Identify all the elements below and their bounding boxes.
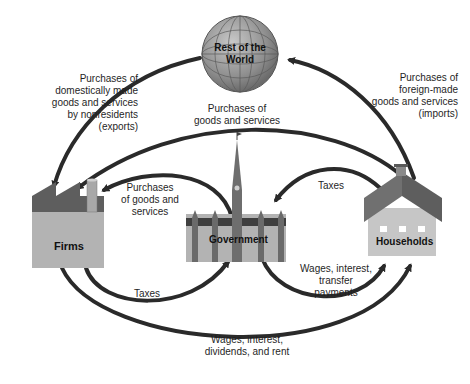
households-label: Households: [376, 236, 433, 247]
imports-label: Purchases of foreign-made goods and serv…: [338, 72, 458, 120]
exports-label: Purchases of domestically made goods and…: [18, 73, 138, 133]
firms-income-label: Wages, interest, dividends, and rent: [192, 334, 302, 358]
gov-payments-label: Wages, interest, transfer payments: [290, 263, 382, 299]
factory-icon: [32, 178, 104, 268]
government-label: Government: [209, 234, 268, 245]
gov-purchases-label: Purchases of goods and services: [118, 182, 182, 218]
hh-taxes-label: Taxes: [318, 180, 344, 192]
firms-label: Firms: [54, 240, 84, 252]
hh-purchases-label: Purchases of goods and services: [182, 103, 292, 127]
firms-taxes-label: Taxes: [134, 288, 160, 300]
world-label: Rest of the World: [212, 42, 268, 66]
